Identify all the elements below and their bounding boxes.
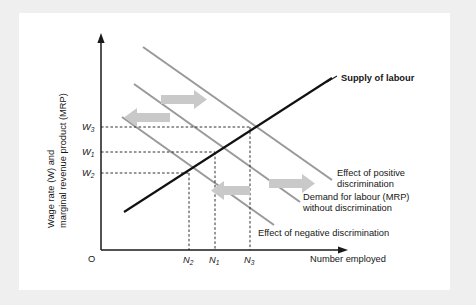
x-tick-n2: N2 xyxy=(183,255,194,266)
x-tick-labels: N2 N1 N3 xyxy=(183,255,255,266)
y-axis-arrowhead xyxy=(97,33,104,43)
x-axis-arrowhead xyxy=(338,246,348,253)
arrow-right-upper-icon xyxy=(161,90,207,109)
y-axis-title: Wage rate (W) and marginal revenue produ… xyxy=(46,93,68,228)
y-tick-labels: W3 W1 W2 xyxy=(82,122,95,179)
mrp-negative-curve xyxy=(122,117,274,225)
mrp-base-label: Demand for labour (MRP) without discrimi… xyxy=(302,192,409,213)
x-tick-n1: N1 xyxy=(209,255,220,266)
x-tick-n3: N3 xyxy=(244,255,255,266)
origin-label: O xyxy=(88,254,95,264)
mrp-positive-label: Effect of positive discrimination xyxy=(337,168,405,189)
x-axis-title: Number employed xyxy=(310,254,386,264)
discrimination-labour-market-chart: Wage rate (W) and marginal revenue produ… xyxy=(0,0,476,305)
mrp-base-label-line1: Demand for labour (MRP) xyxy=(303,192,409,202)
mrp-positive-curve xyxy=(143,47,332,180)
supply-curve-label: Supply of labour xyxy=(341,73,415,83)
mrp-positive-label-line2: discrimination xyxy=(337,179,394,189)
y-tick-w2: W2 xyxy=(82,168,95,179)
figure-root: Wage rate (W) and marginal revenue produ… xyxy=(0,0,476,305)
y-axis-title-line1: Wage rate (W) and xyxy=(46,150,56,228)
mrp-negative-label: Effect of negative discrimination xyxy=(258,228,389,238)
leader-supply xyxy=(327,76,337,82)
y-axis-title-line2: marginal revenue product (MRP) xyxy=(58,93,68,228)
arrow-right-lower-icon xyxy=(269,174,315,193)
mrp-curves xyxy=(122,47,332,225)
mrp-base-label-line2: without discrimination xyxy=(302,203,392,213)
leader-lines xyxy=(327,76,337,82)
y-tick-w1: W1 xyxy=(82,147,95,158)
mrp-positive-label-line1: Effect of positive xyxy=(337,168,405,178)
y-tick-w3: W3 xyxy=(82,122,95,133)
axes xyxy=(97,33,348,254)
